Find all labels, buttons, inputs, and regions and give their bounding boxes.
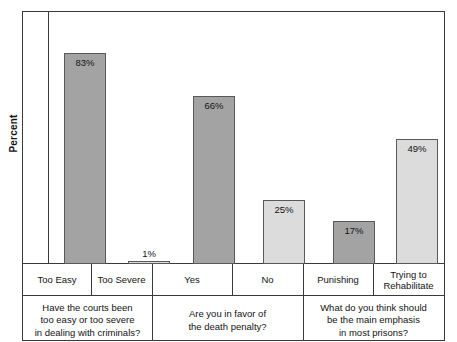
bar-value-label: 25%: [264, 204, 304, 215]
category-label-text: Trying toRehabilitate: [383, 269, 433, 291]
question-label-text: Have the courts beentoo easy or too seve…: [35, 302, 141, 340]
question-label-text: What do you think shouldbe the main emph…: [320, 302, 427, 340]
category-label: Trying toRehabilitate: [373, 264, 444, 295]
question-label-row: Have the courts beentoo easy or too seve…: [23, 295, 444, 341]
question-label: Are you in favor ofthe death penalty?: [152, 296, 303, 342]
category-label-row: Too EasyToo SevereYesNoPunishingTrying t…: [23, 264, 444, 295]
category-label: Too Severe: [91, 264, 152, 295]
label-separator: [373, 264, 374, 295]
bar-punishing: 17%: [333, 221, 375, 264]
label-separator: [152, 264, 153, 341]
bar-no: 25%: [263, 200, 305, 264]
category-label: Yes: [152, 264, 232, 295]
bar-value-label: 66%: [194, 100, 234, 111]
category-label-text: Yes: [184, 274, 200, 285]
bar-chart-figure: Percent 83%1%66%25%17%49% Too EasyToo Se…: [0, 0, 457, 342]
category-label: Punishing: [303, 264, 373, 295]
bar-value-label: 49%: [397, 143, 437, 154]
category-label-text: Punishing: [317, 274, 359, 285]
category-label-text: Too Easy: [37, 274, 76, 285]
label-separator: [232, 264, 233, 295]
question-label: Have the courts beentoo easy or too seve…: [23, 296, 152, 342]
category-label-text: Too Severe: [97, 274, 145, 285]
bar-value-label: 83%: [65, 57, 105, 68]
bar-too-easy: 83%: [64, 53, 106, 264]
question-label-text: Are you in favor ofthe death penalty?: [188, 308, 266, 333]
bar-value-label: 17%: [334, 225, 374, 236]
y-axis-title: Percent: [8, 99, 19, 169]
category-label: Too Easy: [23, 264, 91, 295]
bar-yes: 66%: [193, 96, 235, 264]
label-separator: [91, 264, 92, 295]
bar-value-label: 1%: [129, 248, 169, 259]
bar-trying-to-rehabilitate: 49%: [396, 139, 438, 264]
question-label: What do you think shouldbe the main emph…: [303, 296, 444, 342]
category-label: No: [232, 264, 303, 295]
plot-area: 83%1%66%25%17%49%: [48, 12, 444, 264]
category-label-text: No: [261, 274, 273, 285]
label-separator: [303, 264, 304, 341]
